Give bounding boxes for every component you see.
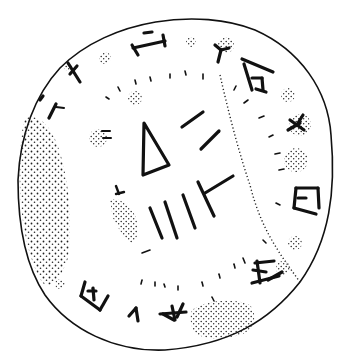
stipple-clusters: [55, 37, 311, 289]
sign-triangle: [143, 123, 169, 175]
sign-four-strokes: [149, 195, 195, 238]
damage-left-edge: [20, 117, 70, 285]
sign-x: [68, 63, 80, 82]
sign-double-stroke: [182, 112, 219, 149]
sign-hook: [116, 186, 124, 194]
sign-a: [160, 304, 186, 320]
sign-box-left: [81, 282, 108, 310]
sign-v: [129, 308, 138, 321]
crack-line: [220, 75, 300, 282]
sign-two-strokes: [40, 96, 64, 118]
sign-box-right: [294, 188, 319, 214]
sign-t: [198, 176, 233, 216]
damage-lower-right: [191, 301, 255, 338]
sign-comb: [242, 59, 273, 92]
incised-signs: [40, 32, 319, 321]
damage-middle-left: [110, 199, 138, 243]
sign-i: [132, 32, 165, 55]
disc-drawing: [0, 0, 350, 363]
